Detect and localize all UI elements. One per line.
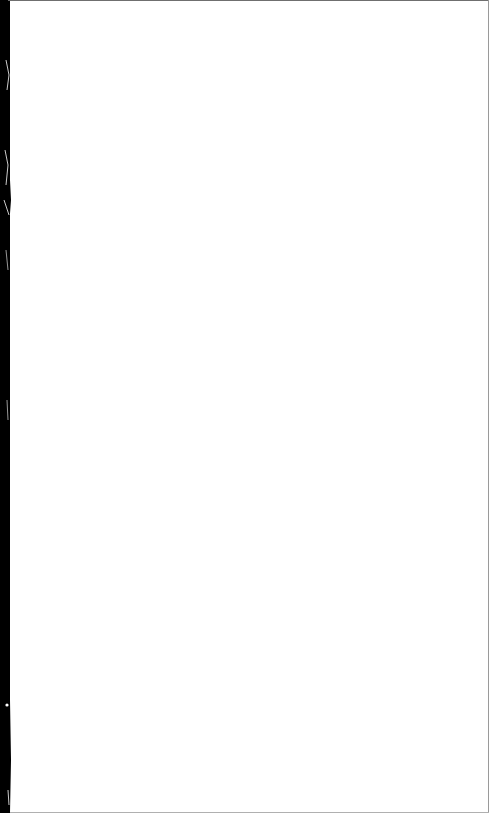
rough-edge-icon bbox=[0, 0, 14, 813]
page-top-border bbox=[8, 0, 489, 1]
scanned-page bbox=[0, 0, 489, 813]
blank-paper-area bbox=[10, 1, 488, 812]
scan-shadow-left-edge bbox=[0, 0, 10, 813]
